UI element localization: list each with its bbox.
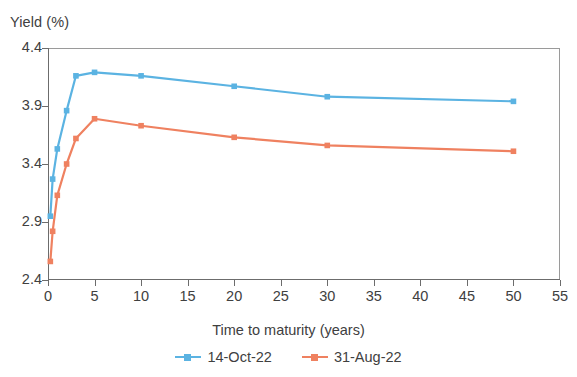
legend-label: 31-Aug-22 [334, 349, 402, 365]
yield-curve-chart: Yield (%) 2.42.93.43.94.4 05101520253035… [0, 0, 577, 377]
x-axis-title: Time to maturity (years) [0, 322, 577, 338]
data-point-marker [48, 259, 54, 265]
data-point-marker [48, 213, 54, 219]
series-overlay [0, 0, 577, 377]
data-point-marker [511, 99, 517, 105]
series-line-31-Aug-22 [50, 119, 513, 262]
data-point-marker [50, 228, 56, 234]
data-point-marker [50, 176, 56, 182]
data-point-marker [73, 73, 79, 79]
data-point-marker [231, 83, 237, 89]
chart-legend: 14-Oct-2231-Aug-22 [0, 349, 577, 365]
series-line-14-Oct-22 [50, 72, 513, 216]
data-point-marker [64, 108, 70, 114]
legend-item[interactable]: 14-Oct-22 [175, 349, 271, 365]
data-point-marker [231, 135, 237, 141]
legend-swatch-icon [175, 352, 201, 362]
data-point-marker [92, 70, 98, 76]
data-point-marker [138, 73, 144, 79]
data-point-marker [55, 146, 61, 152]
data-point-marker [324, 94, 330, 100]
legend-item[interactable]: 31-Aug-22 [302, 349, 402, 365]
data-point-marker [55, 193, 61, 199]
data-point-marker [92, 116, 98, 122]
data-point-marker [324, 143, 330, 149]
data-point-marker [511, 148, 517, 154]
legend-label: 14-Oct-22 [207, 349, 271, 365]
data-point-marker [73, 136, 79, 142]
data-point-marker [138, 123, 144, 129]
legend-swatch-icon [302, 352, 328, 362]
data-point-marker [64, 161, 70, 167]
